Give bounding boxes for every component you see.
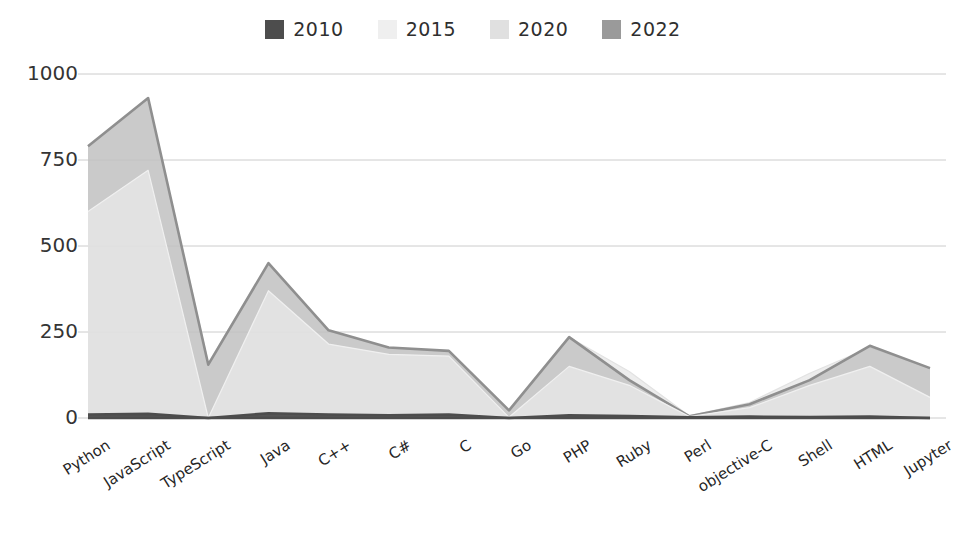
y-axis-tick-label: 1000 [8,63,78,83]
y-axis-tick-label: 250 [8,321,78,341]
y-axis-tick-label: 500 [8,235,78,255]
series-area [88,98,930,418]
y-axis: 10007505002500 [0,0,78,551]
y-axis-tick-label: 0 [8,407,78,427]
y-axis-tick-label: 750 [8,149,78,169]
